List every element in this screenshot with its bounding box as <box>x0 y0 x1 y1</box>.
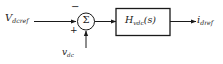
feedback-input-label: vdc <box>62 48 74 57</box>
input-reference-label: Vdcref <box>5 13 29 23</box>
feedback-input-subscript: dc <box>67 52 74 58</box>
transfer-function-argument: (s) <box>144 14 156 25</box>
output-subscript: dref <box>200 19 213 26</box>
input-reference-subscript: dcref <box>12 17 28 24</box>
transfer-function-label: Hvdc(s) <box>125 15 156 25</box>
block-diagram: Vdcref − + Σ vdc Hvdc(s) idref <box>0 0 223 64</box>
sum-plus-sign: + <box>70 26 78 35</box>
output-label: idref <box>197 15 213 25</box>
transfer-function-subscript: vdc <box>133 20 143 26</box>
sigma-icon: Σ <box>79 15 93 25</box>
sum-minus-sign: − <box>71 2 79 12</box>
diagram-wires <box>0 0 223 64</box>
